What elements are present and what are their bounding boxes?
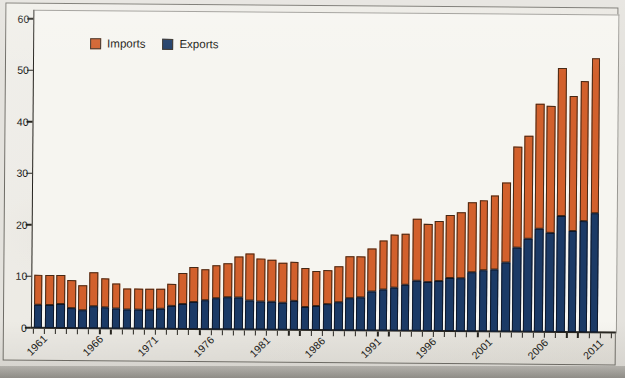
bar-1981-imports-segment [256, 259, 265, 301]
x-tick-38 [455, 332, 456, 337]
bar-1989-exports-segment [345, 298, 354, 331]
x-tick-11 [155, 330, 156, 335]
bar-1969-exports-segment [123, 310, 132, 329]
bar-1983-exports-segment [278, 302, 287, 329]
bar-2004-imports-segment [513, 147, 522, 247]
bar-1976-imports-segment [201, 269, 210, 300]
bar-1991-exports-segment [367, 291, 376, 330]
x-tick-15 [199, 330, 200, 335]
bar-1993-exports-segment [390, 287, 399, 330]
bar-1968-imports-segment [112, 283, 121, 309]
bar-1969-imports-segment [123, 288, 132, 310]
bar-1972-exports-segment [156, 309, 165, 329]
bar-1996 [423, 224, 433, 331]
x-tick-48 [566, 333, 567, 338]
x-tick-27 [333, 331, 334, 336]
bar-2000-imports-segment [468, 202, 477, 272]
bar-1985 [301, 268, 310, 330]
bar-2009 [567, 96, 578, 332]
bar-1984-imports-segment [290, 261, 299, 301]
x-tick-51 [600, 333, 601, 338]
bar-1996-imports-segment [423, 224, 432, 282]
bar-1973-imports-segment [167, 284, 176, 307]
legend-label-exports: Exports [179, 38, 218, 50]
bar-1985-exports-segment [301, 307, 310, 330]
bar-1972 [156, 289, 165, 329]
bar-1992-imports-segment [379, 241, 388, 290]
bar-1992-exports-segment [378, 290, 387, 331]
y-tick-label-20: 20 [2, 219, 28, 230]
bar-1991 [367, 248, 376, 330]
bar-2007 [545, 106, 555, 332]
bar-1990-imports-segment [356, 256, 365, 297]
x-tick-26 [322, 331, 323, 336]
x-tick-16 [210, 330, 211, 335]
bar-1987 [323, 270, 332, 330]
bar-1968-exports-segment [112, 309, 121, 329]
bar-1974 [178, 273, 187, 329]
bar-1988-exports-segment [334, 302, 343, 330]
x-tick-7 [110, 329, 111, 334]
bar-2001 [478, 200, 488, 331]
x-tick-9 [133, 330, 134, 335]
x-tick-29 [355, 331, 356, 336]
bar-2005-imports-segment [524, 135, 534, 239]
x-tick-25 [310, 331, 311, 336]
x-tick-31 [377, 332, 378, 337]
bar-1977-exports-segment [212, 298, 221, 329]
x-tick-20 [255, 331, 256, 336]
bar-2007-exports-segment [545, 233, 554, 332]
bar-1965-exports-segment [78, 310, 87, 328]
bar-2002-imports-segment [490, 195, 499, 270]
x-tick-33 [399, 332, 400, 337]
y-tick-label-60: 60 [3, 13, 29, 24]
x-tick-43 [511, 333, 512, 338]
bar-1977-imports-segment [212, 265, 221, 298]
x-tick-23 [288, 331, 289, 336]
bar-1974-exports-segment [178, 304, 187, 329]
bar-1980 [245, 253, 254, 329]
bar-2004-exports-segment [512, 247, 521, 332]
bar-1995 [412, 219, 422, 331]
legend: Imports Exports [90, 37, 218, 50]
x-tick-24 [299, 331, 300, 336]
x-tick-12 [166, 330, 167, 335]
bar-1970 [134, 289, 143, 329]
bar-1972-imports-segment [156, 289, 165, 309]
bar-1986-imports-segment [312, 271, 321, 306]
x-tick-0 [32, 329, 33, 334]
x-tick-10 [144, 330, 145, 335]
bar-1986-exports-segment [312, 306, 321, 330]
bar-1978 [223, 263, 232, 329]
bar-2006-imports-segment [535, 104, 545, 229]
y-tick-label-40: 40 [2, 116, 28, 127]
bar-1993 [390, 235, 399, 331]
bar-1977 [212, 265, 221, 329]
bar-1992 [378, 241, 387, 331]
bar-2001-exports-segment [478, 271, 487, 332]
x-tick-1 [44, 329, 45, 334]
bar-1999-imports-segment [457, 212, 466, 278]
bar-1966-imports-segment [89, 273, 98, 307]
x-tick-44 [522, 333, 523, 338]
y-tick-label-0: 0 [1, 322, 27, 333]
bar-2010-exports-segment [579, 221, 589, 332]
bar-1964 [67, 280, 76, 328]
bar-1975 [189, 267, 198, 329]
bar-1979-imports-segment [234, 256, 243, 297]
exports-swatch-icon [162, 38, 173, 49]
bar-1997-imports-segment [434, 221, 443, 281]
bar-1989 [345, 257, 354, 331]
bar-1974-imports-segment [178, 273, 187, 303]
bar-1987-imports-segment [323, 270, 332, 304]
x-tick-28 [344, 331, 345, 336]
bar-1962-imports-segment [45, 275, 54, 305]
bar-1990-exports-segment [356, 297, 365, 330]
bar-1971-exports-segment [145, 310, 154, 329]
bar-2007-imports-segment [546, 106, 556, 233]
x-tick-42 [499, 332, 500, 337]
bar-2002-exports-segment [490, 270, 499, 332]
bar-1966-exports-segment [89, 306, 98, 328]
bar-1978-exports-segment [223, 297, 232, 329]
bar-2003-imports-segment [501, 182, 510, 262]
